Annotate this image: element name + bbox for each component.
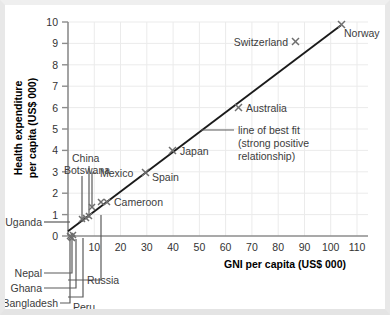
point-label-cameroon: Cameroon — [114, 196, 163, 208]
point-label-spain: Spain — [152, 171, 179, 183]
point-label-norway: Norway — [344, 27, 380, 39]
y-tick-1: 1 — [52, 209, 58, 221]
x-tick-30: 30 — [141, 241, 153, 253]
point-label-japan: Japan — [180, 145, 209, 157]
point-label-peru: Peru — [73, 301, 95, 313]
point-label-mexico: Mexico — [100, 167, 133, 179]
annotation-line-3: relationship) — [238, 150, 295, 162]
point-label-australia: Australia — [246, 102, 287, 114]
y-tick-7: 7 — [52, 80, 58, 92]
point-label-nepal: Nepal — [15, 267, 42, 279]
x-tick-90: 90 — [299, 241, 311, 253]
annotation-line-2: (strong positive — [238, 137, 309, 149]
x-axis-title: GNI per capita (US$ 000) — [224, 258, 346, 270]
x-tick-40: 40 — [167, 241, 179, 253]
scatter-plot: 0 1 2 3 4 5 6 7 8 9 10 10 20 30 40 50 60… — [0, 0, 390, 315]
x-tick-20: 20 — [115, 241, 127, 253]
x-tick-50: 50 — [194, 241, 206, 253]
x-tick-70: 70 — [246, 241, 258, 253]
x-tick-60: 60 — [220, 241, 232, 253]
chart-canvas: 0 1 2 3 4 5 6 7 8 9 10 10 20 30 40 50 60… — [0, 0, 390, 315]
x-tick-10: 10 — [88, 241, 100, 253]
point-label-bangladesh: Bangladesh — [3, 297, 59, 309]
point-label-uganda: Uganda — [5, 216, 42, 228]
y-axis-title-line2: per capita (US$ 000) — [26, 78, 38, 178]
y-tick-4: 4 — [52, 144, 58, 156]
point-label-russia: Russia — [87, 274, 119, 286]
y-tick-0: 0 — [52, 230, 58, 242]
point-label-switzerland: Switzerland — [234, 36, 288, 48]
y-tick-10: 10 — [46, 16, 58, 28]
x-tick-100: 100 — [322, 241, 340, 253]
annotation-line-1: line of best fit — [238, 124, 300, 136]
x-tick-110: 110 — [349, 241, 366, 253]
y-tick-3: 3 — [52, 166, 58, 178]
y-axis-title-line1: Health expenditure — [12, 81, 24, 176]
point-label-ghana: Ghana — [10, 282, 42, 294]
x-tick-80: 80 — [272, 241, 284, 253]
point-label-china: China — [72, 152, 100, 164]
y-tick-8: 8 — [52, 59, 58, 71]
y-tick-9: 9 — [52, 37, 58, 49]
y-tick-5: 5 — [52, 123, 58, 135]
y-tick-6: 6 — [52, 102, 58, 114]
y-tick-2: 2 — [52, 187, 58, 199]
